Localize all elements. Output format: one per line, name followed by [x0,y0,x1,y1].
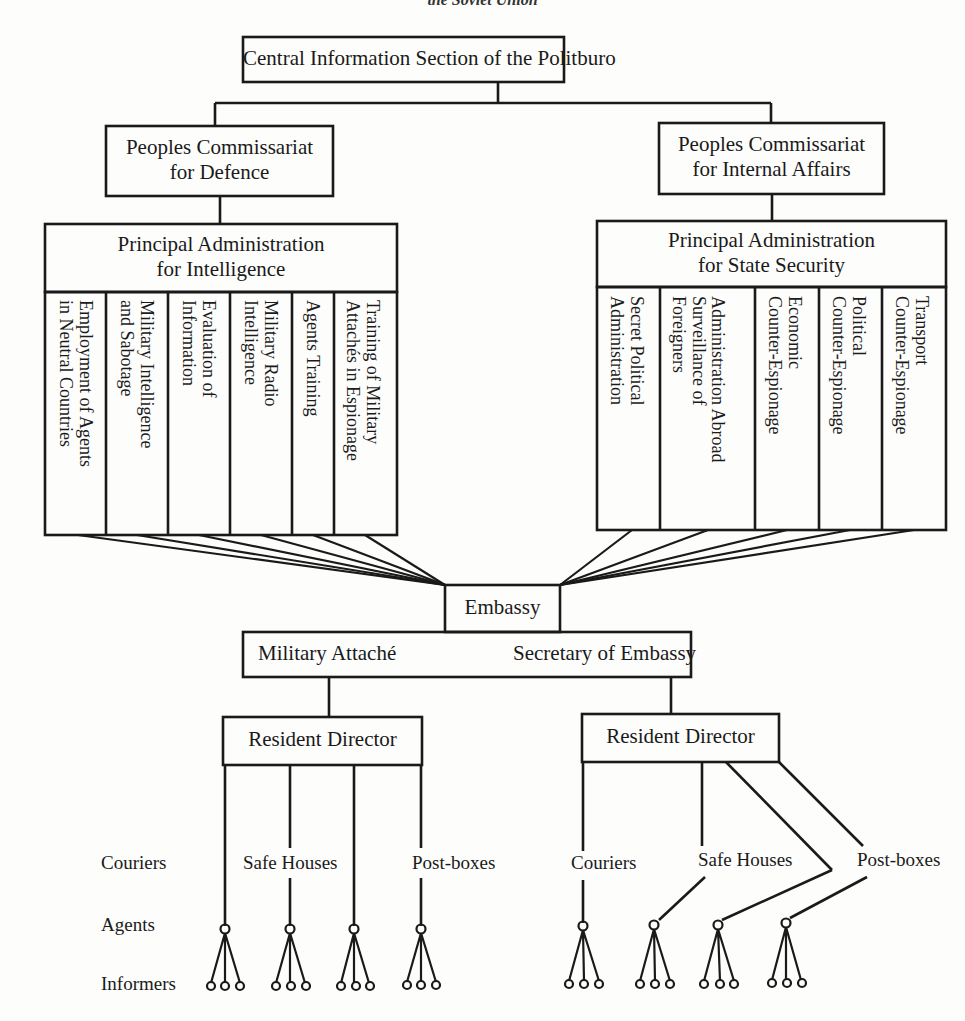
embassy-box: Embassy [445,595,560,620]
intelligence-administration-line2: for Intelligence [45,257,397,282]
department-line1: Evaluation of [199,300,219,397]
internal-affairs-commissariat-box: Peoples Commissariat for Internal Affair… [659,132,884,182]
safe-houses-label-left: Safe Houses [243,852,337,874]
intelligence-administration-box: Principal Administration for Intelligenc… [45,232,397,282]
department-economic-counter-espionage: Economic Counter-Espionage [764,296,804,526]
department-line3: Foreigners [669,296,689,373]
state-security-administration-box: Principal Administration for State Secur… [597,228,946,278]
defence-commissariat-box: Peoples Commissariat for Defence [106,135,333,185]
internal-commissariat-line2: for Internal Affairs [659,157,884,182]
couriers-label-left: Couriers [101,852,166,874]
department-transport-counter-espionage: Transport Counter-Espionage [891,296,931,526]
resident-director-left-label: Resident Director [248,727,397,751]
post-boxes-label-right: Post-boxes [857,849,940,871]
department-line2: Intelligence [241,300,261,385]
intelligence-administration-line1: Principal Administration [45,232,397,257]
department-line2: Counter-Espionage [765,296,785,435]
department-line1: Military Intelligence [137,300,157,448]
department-administration-abroad: Administration Abroad Surveillance of Fo… [668,296,727,526]
internal-commissariat-line1: Peoples Commissariat [659,132,884,157]
department-line2: Counter-Espionage [892,296,912,435]
defence-commissariat-line1: Peoples Commissariat [106,135,333,160]
post-boxes-label-left: Post-boxes [412,852,495,874]
department-line1: Administration Abroad [708,296,728,462]
resident-director-right-label: Resident Director [606,724,755,748]
state-security-administration-line2: for State Security [597,253,946,278]
department-line1: Secret Political [627,296,647,405]
informer-nodes [207,979,806,990]
department-line1: Political [849,296,869,356]
department-military-intelligence-sabotage: Military Intelligence and Sabotage [116,300,156,530]
department-line2: Administration [607,296,627,405]
department-line1: Economic [785,296,805,369]
couriers-label-right: Couriers [571,852,636,874]
safe-houses-label-right: Safe Houses [698,849,792,871]
informers-row-label: Informers [101,973,176,995]
department-military-radio-intelligence: Military Radio Intelligence [240,300,280,530]
department-line1: Transport [912,296,932,365]
military-attache-label: Military Attaché [258,641,396,666]
department-line2: Counter-Espionage [829,296,849,435]
department-line1: Agents Training [303,300,323,417]
department-line1: Employment of Agents [76,300,96,467]
department-line2: Surveillance of [689,296,709,405]
department-agents-training: Agents Training [302,300,322,530]
department-line1: Military Radio [261,300,281,407]
department-evaluation-of-information: Evaluation of Information [178,300,218,530]
department-political-counter-espionage: Political Counter-Espionage [828,296,868,526]
department-line1: Training of Military [363,300,383,444]
department-line2: Attachés in Espionage [343,300,363,461]
department-line2: and Sabotage [117,300,137,396]
state-security-administration-line1: Principal Administration [597,228,946,253]
embassy-label: Embassy [465,595,541,619]
resident-director-right-box: Resident Director [582,724,779,749]
agents-row-label: Agents [101,914,155,936]
defence-commissariat-line2: for Defence [106,160,333,185]
department-line2: in Neutral Countries [56,300,76,447]
central-information-section-label: Central Information Section of the Polit… [243,46,616,70]
resident-director-left-box: Resident Director [223,727,422,752]
central-information-section-box: Central Information Section of the Polit… [243,46,564,71]
department-training-military-attaches: Training of Military Attachés in Espiona… [342,300,382,530]
department-line2: Information [179,300,199,386]
secretary-of-embassy-label: Secretary of Embassy [513,641,696,666]
department-employment-of-agents: Employment of Agents in Neutral Countrie… [55,300,95,530]
department-secret-political-administration: Secret Political Administration [606,296,646,526]
